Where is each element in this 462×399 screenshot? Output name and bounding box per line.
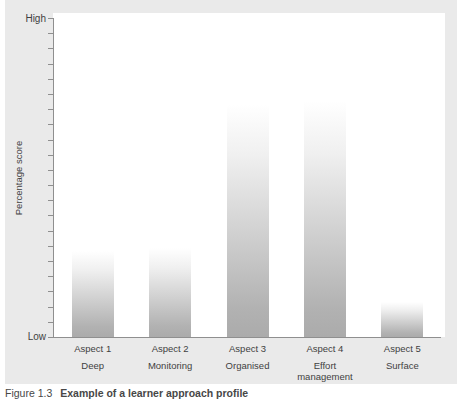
bar-aspect-2 [149,248,191,337]
y-axis-tick [48,79,53,80]
bar-aspect-1 [72,251,114,337]
x-axis-line [53,337,441,338]
figure-caption-title: Example of a learner approach profile [60,387,248,399]
y-axis-title: Percentage score [13,128,25,228]
y-axis-tick [48,337,53,338]
category-label: Aspect 2 [131,343,208,354]
bar-aspect-5 [381,302,423,337]
x-label-aspect-3: Aspect 3 Organised [209,343,286,382]
y-axis-tick [48,200,53,201]
y-axis-tick [48,33,53,34]
category-label: Aspect 1 [54,343,131,354]
y-axis-tick [48,18,53,19]
y-axis-low-label: Low [9,331,46,342]
y-axis-high-label: High [9,13,46,24]
y-axis-tick [48,231,53,232]
bar-aspect-3 [227,104,269,337]
y-axis-tick [48,64,53,65]
category-sublabel: Surface [364,360,441,371]
y-axis-tick [48,215,53,216]
bar-aspect-4 [304,101,346,337]
figure-caption-number: Figure 1.3 [5,387,52,399]
category-sublabel: Effort management [286,360,363,382]
y-axis-tick [48,94,53,95]
category-sublabel: Deep [54,360,131,371]
x-label-aspect-2: Aspect 2 Monitoring [131,343,208,382]
category-label: Aspect 5 [364,343,441,354]
x-label-aspect-4: Aspect 4 Effort management [286,343,363,382]
y-axis-tick [48,170,53,171]
y-axis-tick [48,185,53,186]
y-axis-tick [48,276,53,277]
category-sublabel: Monitoring [131,360,208,371]
bars-container [54,18,441,337]
y-axis-tick [48,261,53,262]
figure-box: High Low Percentage score Aspect 1 Deep … [5,0,457,384]
y-axis-tick [48,322,53,323]
y-axis-tick [48,124,53,125]
y-axis-tick [48,48,53,49]
y-axis-tick [48,246,53,247]
x-label-aspect-5: Aspect 5 Surface [364,343,441,382]
y-axis-tick [48,155,53,156]
category-sublabel: Organised [209,360,286,371]
y-axis-tick [48,307,53,308]
figure-caption: Figure 1.3Example of a learner approach … [5,387,457,399]
y-axis-tick [48,140,53,141]
y-axis-tick [48,109,53,110]
x-label-aspect-1: Aspect 1 Deep [54,343,131,382]
y-axis-tick [48,291,53,292]
category-label: Aspect 3 [209,343,286,354]
category-label: Aspect 4 [286,343,363,354]
x-axis-labels: Aspect 1 Deep Aspect 2 Monitoring Aspect… [54,343,441,382]
